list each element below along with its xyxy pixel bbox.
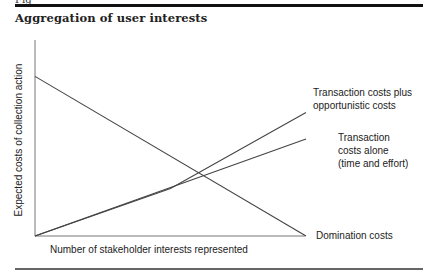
chart: Expected costs of collection action Numb… [0, 0, 433, 279]
svg-text:Domination costs: Domination costs [316, 230, 393, 241]
label-transaction-plus-opportunistic: Transaction costs plus opportunistic cos… [313, 87, 412, 111]
svg-text:(time and effort): (time and effort) [338, 158, 408, 169]
x-axis-label: Number of stakeholder interests represen… [50, 244, 248, 255]
label-transaction-alone: Transaction costs alone (time and effort… [338, 132, 408, 169]
svg-text:Transaction: Transaction [338, 132, 390, 143]
transaction-plus-opportunistic-line [35, 113, 306, 237]
domination-costs-line [35, 76, 306, 236]
y-axis-label: Expected costs of collection action [13, 64, 24, 217]
label-domination-costs: Domination costs [316, 230, 393, 241]
svg-text:costs alone: costs alone [338, 145, 389, 156]
svg-text:Transaction costs plus: Transaction costs plus [313, 87, 412, 98]
series-layer [35, 76, 306, 236]
svg-text:opportunistic costs: opportunistic costs [313, 100, 396, 111]
bottom-rule [15, 268, 423, 270]
